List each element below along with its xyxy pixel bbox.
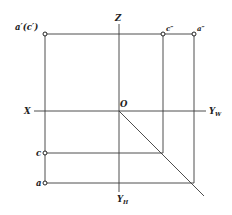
label-yw-axis: YW (209, 106, 222, 117)
label-c-double-prime: c″ (166, 24, 174, 33)
label-a: a (36, 178, 42, 188)
point-a-double-prime (192, 32, 196, 36)
label-a-double-prime: a″ (197, 24, 206, 33)
label-a-prime-c-prime: a′(c′) (15, 22, 38, 32)
point-a-prime (43, 32, 47, 36)
point-c (43, 151, 47, 155)
point-c-double-prime (161, 32, 165, 36)
label-origin: O (120, 99, 128, 109)
label-x-axis: X (23, 106, 31, 116)
point-a (43, 181, 47, 185)
label-c: c (36, 148, 42, 158)
label-z-axis: Z (114, 13, 122, 23)
projection-diagram: a′(c′) c″ a″ c a Z X O YW YH (0, 0, 232, 215)
label-yh-axis: YH (117, 194, 129, 205)
